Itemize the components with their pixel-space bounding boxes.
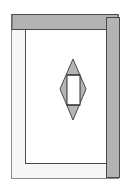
door-frame-diagram [0, 0, 130, 188]
top-bar [12, 15, 118, 30]
diagram-canvas [0, 0, 130, 188]
diamond-center-rect [67, 75, 80, 105]
right-bar [107, 18, 120, 178]
